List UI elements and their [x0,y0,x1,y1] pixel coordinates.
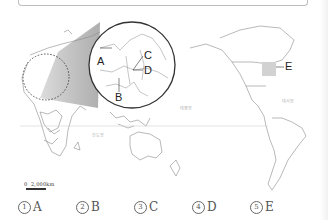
option-label: E [265,200,274,214]
option-label: B [91,200,100,214]
option-number: 5 [250,201,263,214]
label-d: D [144,64,152,76]
scale-label: 0 2,000km [24,181,54,187]
label-c: C [144,49,152,61]
option-label: D [207,200,217,214]
option-number: 2 [76,201,89,214]
option-4[interactable]: 4D [192,200,250,214]
ocean-label-indian: 인도양 [92,132,104,138]
option-label: A [33,200,42,214]
ocean-label-pacific: 태평양 [180,105,192,111]
option-number: 4 [192,201,205,214]
canada-shade [262,62,276,76]
label-e: E [285,60,292,72]
option-label: C [149,200,158,214]
option-2[interactable]: 2B [76,200,134,214]
answer-options: 1A 2B 3C 4D 5E [18,200,318,214]
option-number: 3 [134,201,147,214]
ocean-label-atlantic: 대서양 [282,98,294,104]
scale-bar [26,188,46,190]
scale-distance: 2,000km [31,181,55,187]
label-b: B [115,91,122,103]
option-1[interactable]: 1A [18,200,76,214]
world-map [0,0,328,220]
label-a: A [97,55,104,67]
option-number: 1 [18,201,31,214]
option-5[interactable]: 5E [250,200,308,214]
scale-zero: 0 [24,181,27,187]
option-3[interactable]: 3C [134,200,192,214]
